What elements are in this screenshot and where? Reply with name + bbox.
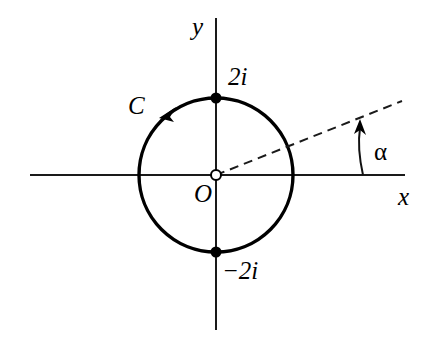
figure-canvas [0, 0, 428, 339]
angle-label-alpha: α [374, 139, 387, 164]
point-label-2i: 2i [228, 64, 247, 89]
point-label-minus-2i: −2i [222, 258, 258, 283]
angle-arc [359, 128, 363, 175]
complex-plane-figure: y x 2i −2i O C α [0, 0, 428, 339]
y-axis-label: y [192, 14, 203, 39]
point-marker-minus-2i [211, 247, 222, 258]
origin-label: O [194, 181, 212, 206]
point-marker-2i [211, 93, 222, 104]
origin-marker [211, 170, 221, 180]
x-axis-label: x [398, 184, 409, 209]
contour-label-c: C [128, 93, 145, 118]
